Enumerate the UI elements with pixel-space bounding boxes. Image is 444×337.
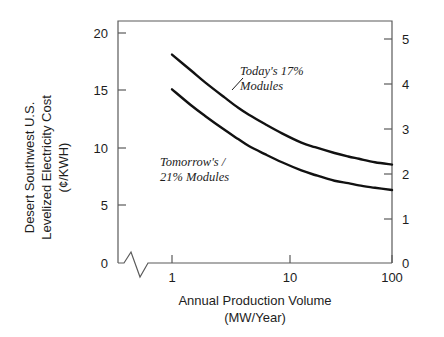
y-tick-label-20: 20 <box>74 26 108 41</box>
y-left-ticks <box>118 33 126 205</box>
y2-tick-label-0: 0 <box>402 256 409 271</box>
y2-tick-label-1: 1 <box>402 212 409 227</box>
x-ticks <box>172 255 392 263</box>
y-axis-label-line1: Desert Southwest U.S. <box>21 48 38 288</box>
annotation-tomorrows-modules-line2: 21% Modules <box>160 170 229 185</box>
chart-figure: Desert Southwest U.S. Levelized Electric… <box>0 0 444 337</box>
y-tick-label-10: 10 <box>74 141 108 156</box>
axis-break-zigzag <box>118 252 392 277</box>
y-right-ticks <box>384 39 392 219</box>
x-axis-baseline <box>118 252 392 277</box>
y-tick-label-0: 0 <box>74 256 108 271</box>
annotation-tomorrows-modules: Tomorrow's / 21% Modules <box>160 155 229 185</box>
y2-tick-label-4: 4 <box>402 77 409 92</box>
x-tick-label-100: 100 <box>381 270 403 285</box>
y-tick-label-5: 5 <box>74 198 108 213</box>
x-axis-label-line1: Annual Production Volume <box>118 292 392 309</box>
x-axis-label-line2: (MW/Year) <box>118 309 392 326</box>
y-axis-label: Desert Southwest U.S. Levelized Electric… <box>21 48 72 288</box>
y2-tick-label-3: 3 <box>402 122 409 137</box>
axis-box <box>118 21 392 263</box>
annotation-todays-modules: Today's 17% Modules <box>240 64 304 94</box>
y-axis-label-line3: (¢/KWH) <box>55 48 72 288</box>
y2-tick-label-2: 2 <box>402 167 409 182</box>
y2-tick-label-5: 5 <box>402 32 409 47</box>
annotation-todays-modules-line1: Today's 17% <box>240 64 304 79</box>
annotation-todays-modules-line2: Modules <box>240 79 304 94</box>
x-tick-label-1: 1 <box>168 270 175 285</box>
y-tick-label-15: 15 <box>74 83 108 98</box>
axis-frame <box>118 21 392 263</box>
x-axis-label: Annual Production Volume (MW/Year) <box>118 292 392 326</box>
x-tick-label-10: 10 <box>283 270 297 285</box>
y-axis-label-line2: Levelized Electricity Cost <box>38 48 55 288</box>
annotation-tomorrows-modules-line1: Tomorrow's / <box>160 155 229 170</box>
